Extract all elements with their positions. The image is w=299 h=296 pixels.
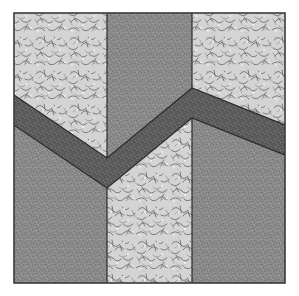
quilt-block-svg [0,0,299,296]
block-patches [14,13,285,283]
screenshot-canvas [0,0,299,296]
quilt-block [0,0,299,296]
